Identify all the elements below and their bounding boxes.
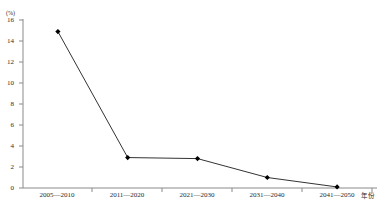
x-tick-label-1: 2011—2020 xyxy=(92,191,162,200)
plot-area xyxy=(0,0,389,212)
x-axis-title: 年份 xyxy=(361,191,375,200)
data-series-line xyxy=(58,32,337,187)
data-point-2 xyxy=(195,156,200,161)
x-tick-label-2: 2021—2030 xyxy=(162,191,232,200)
data-point-markers xyxy=(55,29,339,190)
data-point-0 xyxy=(55,29,60,34)
data-point-4 xyxy=(335,184,340,189)
data-point-3 xyxy=(265,175,270,180)
data-point-1 xyxy=(125,155,130,160)
x-tick-label-3: 2031—2040 xyxy=(232,191,302,200)
line-chart: (%) 16 14 12 10 8 6 4 2 0 2005—2010 2 xyxy=(0,0,389,212)
x-tick-label-0: 2005—2010 xyxy=(22,191,92,200)
